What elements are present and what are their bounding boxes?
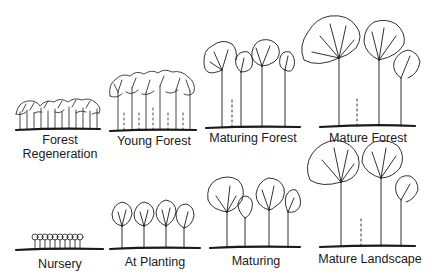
stage-label-nursery: Nursery [20, 257, 100, 271]
stage-label-young-forest: Young Forest [106, 134, 202, 148]
stage-label-forest-regeneration: Forest Regeneration [8, 133, 112, 161]
maturing-illustration [208, 177, 301, 248]
stage-label-mature-forest: Mature Forest [316, 131, 420, 145]
maturing-forest-illustration [204, 40, 300, 128]
forest-regeneration-illustration [16, 99, 100, 130]
stage-label-mature-landscape: Mature Landscape [310, 252, 430, 266]
at-planting-illustration [110, 200, 200, 249]
label-line: Forest [8, 133, 112, 147]
mature-landscape-illustration [307, 140, 418, 247]
mature-forest-illustration [302, 16, 420, 127]
stage-label-at-planting: At Planting [110, 255, 200, 269]
young-forest-illustration [110, 70, 196, 131]
stage-label-maturing-forest: Maturing Forest [202, 131, 304, 145]
nursery-illustration [16, 234, 103, 250]
label-line: Regeneration [8, 147, 112, 161]
stage-label-maturing: Maturing [212, 254, 300, 268]
